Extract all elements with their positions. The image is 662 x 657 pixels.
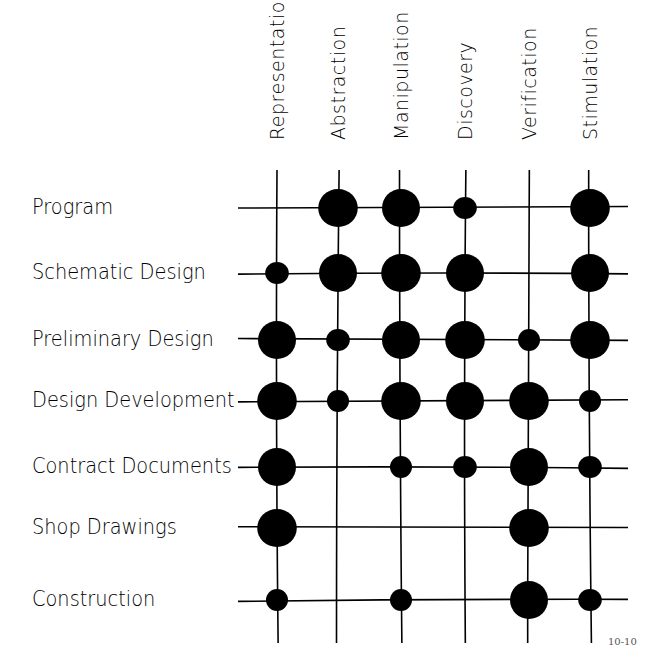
small-dot — [518, 329, 540, 351]
process-matrix-diagram: RepresentationAbstractionManipulationDis… — [0, 0, 662, 657]
column-header-label: Discovery — [454, 42, 476, 140]
large-dot — [570, 321, 610, 359]
row-header-label: Design Development — [32, 387, 235, 412]
row-header-label: Shop Drawings — [32, 514, 177, 539]
small-dot — [326, 329, 350, 351]
large-dot — [319, 254, 357, 292]
large-dot — [509, 509, 549, 547]
grid-line-horizontal — [238, 339, 628, 341]
large-dot — [445, 321, 485, 359]
column-header: Discovery — [450, 0, 480, 140]
small-dot — [453, 456, 477, 478]
large-dot — [570, 189, 610, 227]
small-dot — [266, 589, 288, 611]
column-header-label: Abstraction — [327, 26, 349, 140]
large-dot — [381, 254, 421, 292]
large-dot — [446, 382, 484, 420]
large-dot — [571, 254, 609, 292]
large-dot — [318, 189, 358, 227]
row-header-label: Preliminary Design — [32, 326, 214, 351]
column-header: Verification — [514, 0, 544, 140]
page-number: 10-10 — [608, 636, 637, 647]
small-dot — [390, 456, 412, 478]
grid-line-horizontal — [238, 599, 628, 601]
large-dot — [258, 321, 296, 359]
large-dot — [510, 581, 548, 619]
small-dot — [578, 589, 602, 611]
large-dot — [382, 189, 420, 227]
column-header: Representation — [262, 0, 292, 140]
large-dot — [510, 448, 548, 486]
row-header-label: Construction — [32, 586, 155, 611]
large-dot — [381, 382, 421, 420]
small-dot — [327, 390, 349, 412]
large-dot — [382, 321, 420, 359]
small-dot — [578, 456, 602, 478]
small-dot — [579, 390, 601, 412]
grid-line-horizontal — [238, 207, 628, 208]
row-header-label: Contract Documents — [32, 453, 232, 478]
column-header-label: Verification — [518, 27, 540, 140]
column-header: Manipulation — [386, 0, 416, 140]
column-header: Abstraction — [323, 0, 353, 140]
column-header-label: Manipulation — [390, 11, 412, 140]
row-header-label: Program — [32, 194, 113, 219]
small-dot — [265, 262, 289, 284]
row-header-label: Schematic Design — [32, 259, 206, 284]
large-dot — [258, 448, 296, 486]
small-dot — [390, 589, 412, 611]
column-header: Stimulation — [575, 0, 605, 140]
small-dot — [453, 197, 477, 219]
column-header-label: Stimulation — [579, 26, 601, 140]
large-dot — [509, 382, 549, 420]
large-dot — [446, 254, 484, 292]
large-dot — [257, 382, 297, 420]
grid-line-horizontal — [238, 273, 628, 274]
column-header-label: Representation — [266, 0, 288, 140]
grid-line-horizontal — [238, 467, 628, 469]
large-dot — [257, 509, 297, 547]
